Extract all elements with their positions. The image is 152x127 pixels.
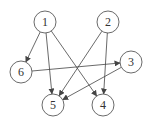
node-label: 5: [50, 98, 56, 112]
node-label: 1: [42, 15, 48, 29]
edge-3-to-5: [63, 67, 122, 99]
edge-1-to-5: [46, 33, 52, 94]
edges: [26, 31, 122, 100]
node-1: 1: [34, 11, 56, 33]
edge-1-to-6: [26, 32, 40, 62]
edge-1-to-4: [51, 31, 96, 96]
node-2: 2: [97, 11, 119, 33]
node-5: 5: [42, 94, 64, 116]
edge-2-to-4: [104, 33, 108, 94]
nodes: 123456: [10, 11, 142, 116]
node-label: 3: [128, 55, 134, 69]
node-label: 2: [105, 15, 111, 29]
node-6: 6: [10, 61, 32, 83]
node-4: 4: [92, 94, 114, 116]
node-3: 3: [120, 51, 142, 73]
edge-2-to-5: [59, 31, 102, 96]
node-label: 4: [100, 98, 106, 112]
directed-graph: 123456: [0, 0, 152, 127]
node-label: 6: [18, 65, 24, 79]
